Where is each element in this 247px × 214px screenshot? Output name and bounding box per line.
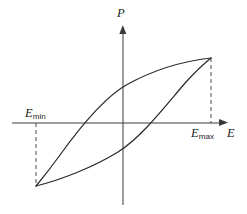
field-min-label-symbol: E xyxy=(25,106,33,120)
horizontal-axis-label: E xyxy=(227,124,235,140)
vertical-axis-arrow-icon xyxy=(119,25,126,34)
field-min-label: Emin xyxy=(25,104,46,121)
field-max-label: Emax xyxy=(191,124,214,141)
vertical-axis xyxy=(119,25,126,205)
vertical-axis-label: P xyxy=(117,4,125,20)
hysteresis-loop-figure: P Emin Emax E xyxy=(0,0,247,214)
field-min-label-subscript: min xyxy=(33,112,46,121)
field-max-label-symbol: E xyxy=(191,126,199,140)
horizontal-axis-label-symbol: E xyxy=(227,126,235,140)
field-max-label-subscript: max xyxy=(199,132,214,141)
vertical-axis-label-symbol: P xyxy=(117,6,125,20)
